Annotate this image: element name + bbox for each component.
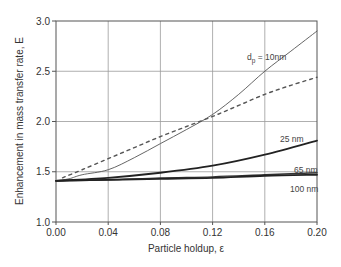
label-25nm: 25 nm: [280, 134, 304, 144]
y-tick-label: 1.0: [36, 217, 50, 228]
x-tick-label: 0.00: [46, 227, 66, 238]
y-tick-labels: 1.01.52.02.53.0: [36, 16, 50, 228]
label-100nm: 100 nm: [290, 184, 318, 194]
x-tick-labels: 0.000.040.080.120.160.20: [46, 227, 327, 238]
y-tick-label: 3.0: [36, 16, 50, 27]
x-tick-label: 0.12: [203, 227, 223, 238]
x-tick-label: 0.16: [255, 227, 275, 238]
enhancement-chart: 0.000.040.080.120.160.20 1.01.52.02.53.0…: [0, 0, 341, 267]
x-axis-label: Particle holdup, ε: [148, 243, 225, 254]
y-tick-label: 2.5: [36, 66, 50, 77]
y-tick-label: 2.0: [36, 116, 50, 127]
y-tick-label: 1.5: [36, 166, 50, 177]
y-axis-label: Enhancement in mass transfer rate, E: [14, 37, 25, 205]
label-10nm-suffix: = 10nm: [255, 52, 286, 62]
label-10nm: dp = 10nm: [247, 52, 286, 65]
x-tick-label: 0.08: [151, 227, 171, 238]
x-tick-label: 0.04: [98, 227, 118, 238]
x-tick-label: 0.20: [307, 227, 327, 238]
label-65nm: 65 nm: [294, 165, 318, 175]
